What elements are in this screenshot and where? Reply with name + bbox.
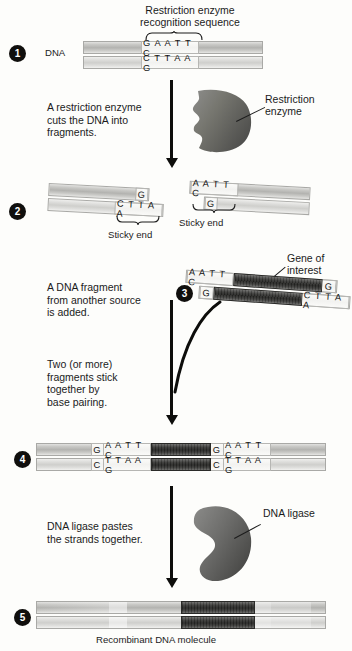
step4-bottom-bases-4: T T A A G [224, 458, 271, 471]
arrow-head-1 [166, 158, 178, 168]
step4-caption: DNA ligase pastes the strands together. [47, 520, 169, 545]
insert-top-left-bases: A A T T C [186, 270, 234, 286]
fragment-left-bottom-strand: C T T A A [47, 198, 164, 217]
dna-ligase-label: DNA ligase [263, 507, 343, 519]
step-badge-4: 4 [14, 451, 31, 468]
step4-top-base-1: G [91, 443, 104, 456]
step-badge-2: 2 [9, 203, 26, 220]
step5-bottom-strand [36, 616, 326, 629]
step4-bottom-bases-2: T T A A G [104, 458, 151, 471]
step-badge-5: 5 [14, 609, 31, 626]
step4-joined-duplex: G A A T T C G A A T T C C T T A A G C T … [36, 443, 326, 471]
restriction-enzyme-label: Restriction enzyme [265, 93, 341, 118]
step5-top-gene-band [181, 601, 255, 614]
gene-of-interest-label: Gene of interest [287, 252, 345, 277]
step4-top-strand: G A A T T C G A A T T C [36, 443, 326, 456]
step4-top-gene-band [151, 443, 211, 456]
fragment-right-top-overhang: A A T T C [190, 181, 239, 196]
restriction-enzyme-shape [186, 88, 254, 154]
recombinant-dna-label: Recombinant DNA molecule [96, 634, 216, 645]
fragment-left: G C T T A A [47, 183, 164, 217]
insert-bottom-left-base: G [199, 286, 214, 300]
step4-top-base-3: G [211, 443, 224, 456]
sticky-end-left-label: Sticky end [108, 229, 152, 240]
step1-bottom-bases: C T T A A G [141, 56, 199, 69]
arrow-step4-to-step5 [170, 486, 173, 581]
step4-bottom-strand: C T T A A G C T T A A G [36, 458, 326, 471]
dna-label: DNA [45, 47, 65, 58]
step2-caption: A DNA fragment from another source is ad… [47, 281, 167, 319]
arrow-head-2 [166, 415, 178, 425]
curved-merge-arrow [168, 300, 228, 410]
step5-recombinant-duplex [36, 601, 326, 629]
step4-bottom-base-3: C [211, 458, 224, 471]
step5-top-strand [36, 601, 326, 614]
arrow-head-3 [166, 578, 178, 588]
step-badge-1: 1 [9, 45, 26, 62]
recognition-sequence-heading: Restriction enzyme recognition sequence [110, 4, 270, 29]
sticky-end-right-brace [192, 204, 236, 213]
arrow-step1-to-step2 [170, 80, 173, 160]
insert-bottom-right-bases: C T T A A [302, 293, 350, 309]
step1-caption: A restriction enzyme cuts the DNA into f… [47, 101, 167, 139]
step4-bottom-base-1: C [91, 458, 104, 471]
step5-bottom-gene-band [181, 616, 255, 629]
fragment-left-bottom-overhang: C T T A A [114, 201, 163, 216]
step1-bottom-strand: C T T A A G [83, 56, 263, 69]
step1-dna-duplex: G A A T T C C T T A A G [83, 41, 263, 69]
sticky-end-right-label: Sticky end [179, 217, 223, 228]
step3-caption: Two (or more) fragments stick together b… [47, 358, 169, 408]
sticky-end-left-brace [116, 216, 160, 225]
step4-bottom-gene-band [151, 458, 211, 471]
dna-ligase-shape [186, 505, 254, 583]
